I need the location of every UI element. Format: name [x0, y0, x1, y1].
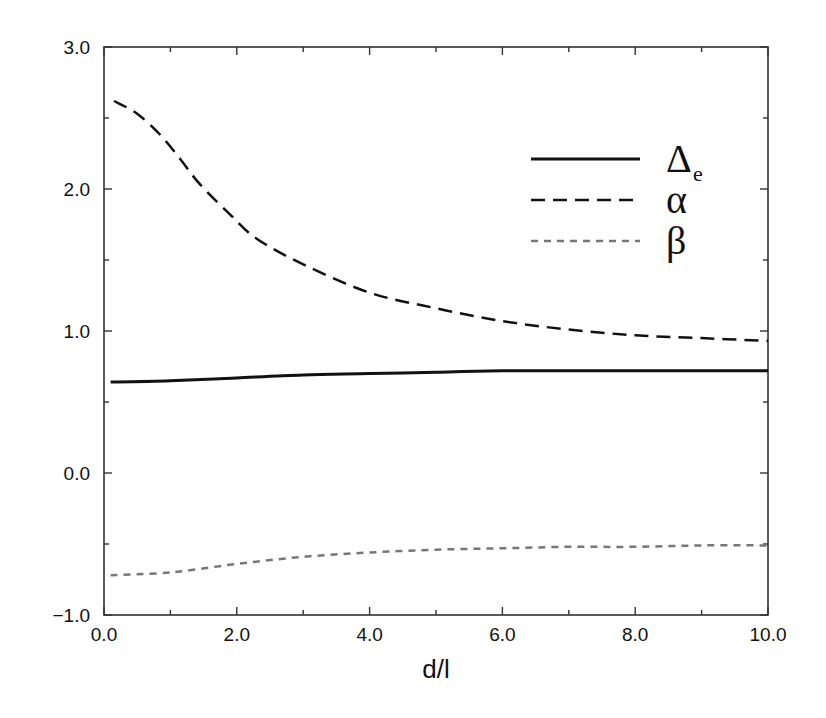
x-tick-label: 10.0	[750, 624, 787, 645]
y-tick-label: 3.0	[64, 37, 90, 58]
legend-label-subscript: e	[693, 161, 703, 186]
x-tick-label: 8.0	[622, 624, 648, 645]
x-tick-label: 4.0	[356, 624, 382, 645]
x-tick-label: 0.0	[91, 624, 117, 645]
plot-border	[104, 47, 768, 615]
legend-label: Δ	[666, 136, 692, 181]
x-tick-label: 2.0	[224, 624, 250, 645]
x-axis-title: d/l	[422, 654, 449, 684]
series-line-beta	[111, 545, 768, 575]
y-tick-label: 2.0	[64, 179, 90, 200]
legend: Δeαβ	[531, 136, 703, 263]
x-tick-label: 6.0	[489, 624, 515, 645]
legend-label: α	[666, 177, 687, 222]
y-tick-label: 0.0	[64, 463, 90, 484]
y-tick-label: 1.0	[64, 321, 90, 342]
axis-tick-labels: 0.02.04.06.08.010.0−1.00.01.02.03.0	[52, 37, 786, 645]
axis-ticks	[104, 47, 768, 615]
plot-frame	[104, 47, 768, 615]
line-chart: 0.02.04.06.08.010.0−1.00.01.02.03.0 Δeαβ…	[0, 0, 826, 718]
legend-label: β	[666, 218, 686, 263]
series-line-delta-e	[111, 371, 768, 382]
y-tick-label: −1.0	[52, 605, 90, 626]
